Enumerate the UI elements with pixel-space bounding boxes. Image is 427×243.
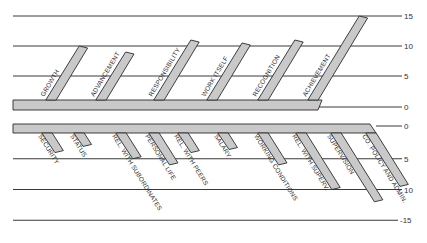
factor-bars [13,16,408,202]
upper-baseline-bar [13,100,322,110]
lower-baseline-bar [13,124,376,133]
lower-bar-label: WORKING CONDITIONS [253,133,299,202]
upper-tick-label: 10 [404,42,413,51]
lower-tick-label: 5 [404,155,409,164]
lower-tick-label: 10 [404,186,413,195]
upper-bar-achievement [308,16,368,100]
lower-tick-label: -15 [400,216,412,225]
upper-tick-label: 0 [404,103,409,112]
upper-tick-label: 15 [404,12,413,21]
lower-bar-label: CO. POLICY AND ADMIN. [361,133,409,204]
factor-diagram: GROWTHADVANCEMENTRESPONSIBILITYWORK ITSE… [0,0,427,243]
upper-tick-label: 5 [404,72,409,81]
lower-tick-label: 0 [404,122,409,131]
